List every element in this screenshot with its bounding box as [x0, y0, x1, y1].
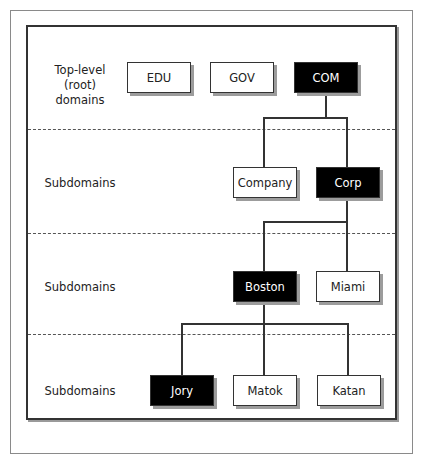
connector-line — [263, 303, 265, 375]
level-label-line2: (root) domains — [40, 78, 120, 108]
connector-line — [346, 221, 348, 271]
connector-line — [325, 94, 327, 118]
level-label-subdomain-2: Subdomains — [40, 280, 120, 295]
connector-line — [263, 221, 265, 271]
level-divider — [28, 129, 395, 130]
connector-line — [263, 221, 348, 223]
node-com: COM — [294, 62, 358, 93]
level-label-subdomain-3: Subdomains — [40, 384, 120, 399]
level-divider — [28, 334, 395, 335]
connector-line — [346, 117, 348, 167]
node-gov: GOV — [210, 62, 274, 93]
connector-line — [263, 117, 265, 167]
connector-line — [347, 323, 349, 375]
node-corp: Corp — [316, 167, 380, 198]
node-miami: Miami — [316, 271, 380, 302]
connector-line — [181, 323, 183, 375]
level-label-top: Top-level (root) domains — [40, 63, 120, 108]
level-divider — [28, 233, 395, 234]
node-boston: Boston — [233, 271, 297, 302]
node-jory: Jory — [150, 375, 214, 406]
connector-line — [346, 198, 348, 223]
connector-line — [181, 323, 349, 325]
node-matok: Matok — [233, 375, 297, 406]
node-katan: Katan — [317, 375, 381, 406]
node-edu: EDU — [127, 62, 191, 93]
level-label-subdomain-1: Subdomains — [40, 176, 120, 191]
node-company: Company — [233, 167, 297, 198]
level-label-line1: Top-level — [40, 63, 120, 78]
connector-line — [263, 117, 348, 119]
